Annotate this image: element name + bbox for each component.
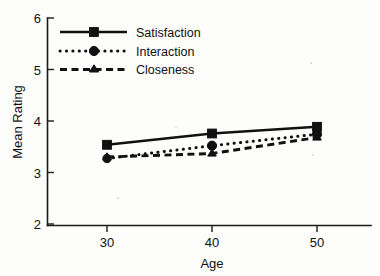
legend-label-closeness: Closeness xyxy=(136,63,194,77)
interaction-marker-30 xyxy=(103,154,111,162)
satisfaction-marker-30 xyxy=(103,140,112,149)
legend-entry-satisfaction: Satisfaction xyxy=(60,26,201,40)
scan-speck xyxy=(310,62,312,64)
y-tick-label-4: 4 xyxy=(34,114,41,129)
chart-page: 6 5 4 3 2 30 40 50 Age Mean Rating xyxy=(0,0,380,276)
y-tick-label-3: 3 xyxy=(34,166,41,181)
line-chart: 6 5 4 3 2 30 40 50 Age Mean Rating xyxy=(0,0,380,276)
scan-speck xyxy=(175,126,177,128)
x-tick-label-50: 50 xyxy=(310,235,324,250)
x-axis-title: Age xyxy=(200,256,223,271)
satisfaction-marker-40 xyxy=(208,129,217,138)
legend-entry-closeness: Closeness xyxy=(60,63,194,77)
scan-speck xyxy=(117,197,119,199)
scan-speck xyxy=(312,154,314,156)
legend-label-interaction: Interaction xyxy=(136,45,194,59)
y-tick-label-5: 5 xyxy=(34,63,41,78)
interaction-marker-40 xyxy=(207,141,216,150)
legend-label-satisfaction: Satisfaction xyxy=(136,26,201,40)
legend-entry-interaction: Interaction xyxy=(60,45,194,59)
circle-marker xyxy=(89,46,98,55)
satisfaction-marker-50 xyxy=(313,122,322,131)
chart-legend: Satisfaction Interaction Closeness xyxy=(60,26,201,78)
y-tick-label-6: 6 xyxy=(34,11,41,26)
square-marker xyxy=(90,28,99,37)
x-tick-label-40: 40 xyxy=(205,235,219,250)
x-tick-label-30: 30 xyxy=(100,235,114,250)
y-tick-label-2: 2 xyxy=(34,217,41,232)
y-axis-title: Mean Rating xyxy=(10,85,25,159)
